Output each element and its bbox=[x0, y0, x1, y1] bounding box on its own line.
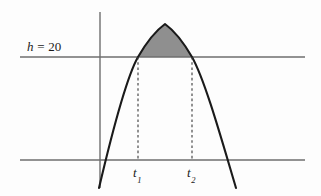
height-value: 20 bbox=[48, 39, 61, 54]
height-line-label: h = 20 bbox=[27, 40, 62, 53]
t1-subscript: 1 bbox=[137, 175, 141, 185]
height-variable: h bbox=[27, 39, 34, 54]
projectile-height-figure: h = 20 t1 t2 bbox=[0, 0, 321, 196]
t2-label: t2 bbox=[187, 166, 195, 182]
t2-subscript: 2 bbox=[191, 175, 195, 185]
height-equals: = bbox=[34, 39, 48, 54]
t1-label: t1 bbox=[133, 166, 141, 182]
figure-canvas bbox=[0, 0, 321, 196]
shaded-region-above-h20 bbox=[138, 24, 192, 57]
